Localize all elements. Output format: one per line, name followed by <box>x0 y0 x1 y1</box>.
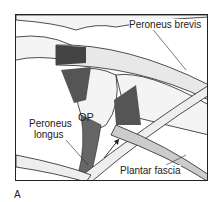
foot-anatomy-illustration <box>16 15 208 181</box>
label-os-peroneum: OP <box>78 111 94 123</box>
panel-label: A <box>14 189 21 200</box>
illustration-frame: Peroneus brevis Peroneus longus OP Plant… <box>15 14 208 181</box>
label-peroneus-longus-1: Peroneus <box>29 118 72 129</box>
label-peroneus-longus-2: longus <box>34 129 63 140</box>
label-plantar-fascia: Plantar fascia <box>120 165 181 176</box>
label-peroneus-brevis: Peroneus brevis <box>129 19 201 30</box>
